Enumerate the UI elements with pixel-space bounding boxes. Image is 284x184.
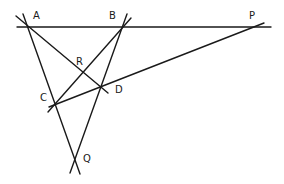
label-b: B [109,10,116,21]
label-q: Q [83,153,91,164]
geometry-diagram: A B R C D P Q [0,0,284,184]
label-a: A [33,10,40,21]
line-brc [48,18,131,112]
label-p: P [249,10,255,21]
label-c: C [40,92,47,103]
label-r: R [76,56,83,67]
line-acq [23,14,80,174]
label-d: D [115,84,123,95]
